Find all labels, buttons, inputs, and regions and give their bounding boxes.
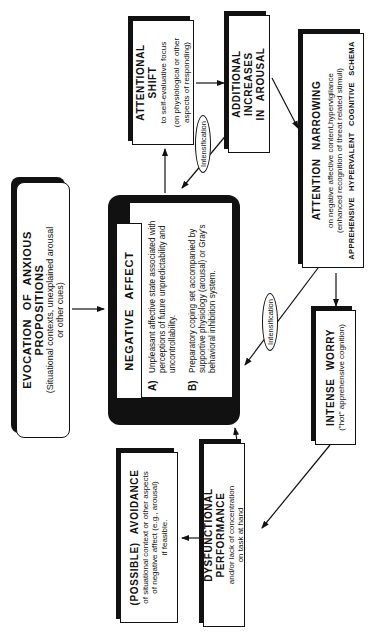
avoidance-sub-1: of situational context or other aspects <box>141 471 151 604</box>
attentional-shift-title: ATTENTIONAL SHIFT <box>135 27 159 138</box>
negative-affect-item-a: A) Unpleasant affective state associated… <box>148 211 178 391</box>
negative-affect-body: A) Unpleasant affective state associated… <box>130 203 232 397</box>
attentional-shift-sub-1: to self-evaluative focus <box>159 42 169 123</box>
avoidance-sub-3: if feasible. <box>160 519 170 555</box>
additional-increases-title-2: IN AROUSAL <box>255 48 267 121</box>
attention-narrowing-title: ATTENTION NARROWING <box>311 81 323 221</box>
intense-worry-title: INTENSE WORRY <box>325 329 337 426</box>
evocation-title: EVOCATION OF ANXIOUS PROPOSITIONS <box>21 189 45 431</box>
intense-worry-sub-1: ("hot" apprehensive cognition) <box>337 324 347 431</box>
evocation-sub-2: or other cues) <box>55 282 66 338</box>
item-b-text: Preparatory coping set accompanied by su… <box>188 211 218 373</box>
item-a-text: Unpleasant affective state associated wi… <box>148 211 178 373</box>
anxiety-model-diagram: EVOCATION OF ANXIOUS PROPOSITIONS (Situa… <box>0 0 385 633</box>
intensification-label-lower: Intensification <box>262 293 278 351</box>
intensification-label-upper: Intensification <box>195 115 211 173</box>
cognitive-schema-label: APPREHENSIVE HYPERVALENT COGNITIVE SCHEM… <box>347 41 356 259</box>
additional-increases-title-1: ADDITIONAL INCREASES <box>231 22 255 146</box>
attention-narrowing-sub-1: on negative affective content,hypervigil… <box>326 73 336 228</box>
dysfunctional-performance-title: DYSFUNCTIONAL PERFORMANCE <box>203 450 227 620</box>
avoidance-box: (POSSIBLE) AVOIDANCE of situational cont… <box>120 452 178 623</box>
dysfunctional-performance-box: DYSFUNCTIONAL PERFORMANCE and/or lack of… <box>203 443 245 627</box>
attentional-shift-box: ATTENTIONAL SHIFT to self-evaluative foc… <box>132 20 194 145</box>
attention-narrowing-sub-2: (enhanced recognition of threat related … <box>335 68 345 233</box>
attentional-shift-sub-3: aspects of responding) <box>182 42 192 123</box>
dysfunctional-performance-sub-1: and/or lack of concentration <box>227 486 237 584</box>
evocation-box: EVOCATION OF ANXIOUS PROPOSITIONS (Situa… <box>16 182 70 438</box>
negative-affect-item-b: B) Preparatory coping set accompanied by… <box>188 211 218 391</box>
item-a-label: A) <box>148 373 178 391</box>
evocation-sub-1: (Situational contexts, unexplained arous… <box>45 227 56 394</box>
additional-increases-box: ADDITIONAL INCREASES IN AROUSAL <box>228 15 270 153</box>
dysfunctional-performance-sub-2: on task at hand <box>236 508 246 563</box>
avoidance-title: (POSSIBLE) AVOIDANCE <box>129 470 141 606</box>
avoidance-sub-2: of negative affect (e.g., arousal) <box>150 481 160 593</box>
item-b-label: B) <box>188 373 218 391</box>
intense-worry-box: INTENSE WORRY ("hot" apprehensive cognit… <box>315 310 356 445</box>
attentional-shift-sub-2: (on physiological or other <box>172 38 182 127</box>
attention-narrowing-box: ATTENTION NARROWING on negative affectiv… <box>302 33 364 268</box>
negative-affect-title: NEGATIVE AFFECT <box>116 223 142 399</box>
negative-affect-box: A) Unpleasant affective state associated… <box>108 195 240 425</box>
